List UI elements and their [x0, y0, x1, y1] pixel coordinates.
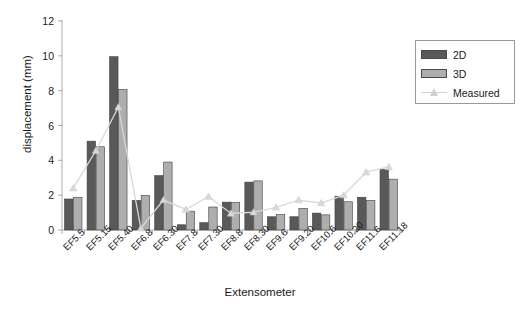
bar-2d-EF9.20: [290, 217, 298, 230]
y-tick-6: 6: [28, 121, 54, 131]
measured-marker-EF9.20: [295, 196, 302, 202]
bar-2d-EF7.30: [200, 223, 208, 230]
measured-marker-EF11.18: [385, 163, 392, 169]
bar-3d-EF5.15: [96, 147, 104, 230]
measured-marker-EF7.30: [205, 193, 212, 199]
bar-2d-EF5.40: [110, 57, 118, 230]
bar-2d-EF11.18: [380, 169, 388, 230]
legend-item-measured: Measured: [421, 83, 514, 102]
bar-3d-EF6.8: [141, 196, 149, 230]
y-tick-0: 0: [28, 225, 54, 235]
bar-2d-EF8.30: [245, 182, 253, 230]
legend-swatch-2d: [421, 50, 447, 59]
bar-2d-EF5.5: [65, 199, 73, 230]
y-tick-10: 10: [28, 51, 54, 61]
y-tick-8: 8: [28, 86, 54, 96]
legend-marker-measured: [421, 88, 447, 97]
y-tick-2: 2: [28, 190, 54, 200]
chart-figure: displacement (mm) Extensometer 121086420…: [0, 0, 523, 315]
bar-2d-EF10.20: [335, 196, 343, 230]
chart-legend: 2D 3D Measured: [415, 40, 515, 104]
bar-3d-EF5.5: [74, 197, 82, 230]
legend-item-3d: 3D: [421, 64, 514, 83]
bar-3d-EF8.30: [254, 181, 262, 230]
y-tick-12: 12: [28, 16, 54, 26]
bar-3d-EF6.30: [164, 162, 172, 230]
measured-marker-EF5.5: [70, 185, 77, 191]
bar-3d-EF5.40: [119, 89, 127, 230]
legend-swatch-3d: [421, 69, 447, 78]
bar-3d-EF11.18: [389, 179, 397, 230]
legend-label-2d: 2D: [453, 49, 466, 61]
legend-item-2d: 2D: [421, 45, 514, 64]
legend-label-measured: Measured: [453, 87, 500, 99]
legend-label-3d: 3D: [453, 68, 466, 80]
y-tick-4: 4: [28, 155, 54, 165]
